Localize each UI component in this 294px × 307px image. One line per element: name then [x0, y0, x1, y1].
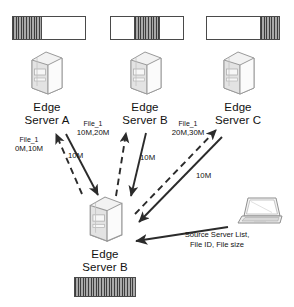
file-chunk-bar-b	[110, 16, 184, 40]
transfer-arrow-b	[131, 133, 146, 196]
laptop-icon	[236, 196, 284, 230]
chunk-segment-empty	[41, 17, 85, 39]
transfer-label-a: 10M	[68, 151, 83, 160]
file-chunk-bar-c	[206, 16, 280, 40]
request-label-a: File_1 0M,10M	[0, 135, 58, 154]
request-arrow-a	[56, 134, 82, 194]
central-server-label-line2: Server B	[64, 261, 146, 274]
client-message-line1: Source Server List,	[163, 230, 271, 240]
server-tower-icon	[218, 48, 258, 96]
client-message-line2: File ID, File size	[163, 240, 271, 250]
request-arrow-b	[116, 133, 126, 196]
central-server-label-line1: Edge	[64, 248, 146, 261]
request-file-name: File_1	[64, 119, 122, 128]
request-file-name: File_1	[159, 119, 217, 128]
request-file-range: 10M,20M	[64, 128, 122, 137]
request-label-b: File_1 10M,20M	[64, 119, 122, 138]
client-message-label: Source Server List, File ID, File size	[163, 230, 271, 250]
transfer-size: 10M	[196, 171, 211, 180]
chunk-segment-filled	[13, 17, 41, 39]
diagram-canvas: Edge Server A Edge Server B Edge Server …	[0, 0, 294, 307]
file-chunk-bar-a	[12, 16, 86, 40]
server-tower-icon	[125, 48, 165, 96]
request-file-range: 20M,30M	[159, 128, 217, 137]
chunk-segment-filled	[134, 17, 159, 39]
request-file-name: File_1	[0, 135, 58, 144]
request-label-c: File_1 20M,30M	[159, 119, 217, 138]
server-label-line1: Edge	[104, 101, 186, 114]
file-chunk-bar-complete	[74, 277, 136, 297]
chunk-segment-filled	[260, 17, 279, 39]
transfer-label-c: 10M	[196, 171, 211, 180]
server-tower-icon	[26, 48, 66, 96]
transfer-size: 10M	[140, 153, 155, 162]
chunk-segment-filled	[75, 278, 135, 296]
server-tower-icon	[84, 192, 126, 244]
chunk-segment-empty	[159, 17, 183, 39]
central-server-label: Edge Server B	[64, 248, 146, 274]
chunk-segment-empty	[207, 17, 260, 39]
transfer-label-b: 10M	[140, 153, 155, 162]
server-label-line1: Edge	[6, 101, 88, 114]
transfer-arrow-a	[66, 134, 98, 195]
transfer-size: 10M	[68, 151, 83, 160]
server-label-line1: Edge	[197, 101, 279, 114]
chunk-segment-empty	[111, 17, 134, 39]
request-file-range: 0M,10M	[0, 144, 58, 153]
